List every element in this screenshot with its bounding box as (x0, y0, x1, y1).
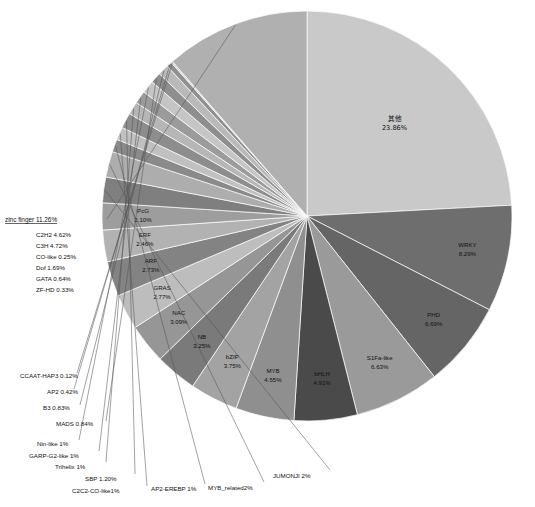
pie-chart-figure: 其他23.86%WRKY8.29%PHD6.69%S1Fa-like6.63%b… (0, 0, 535, 507)
slice-name-label: PHD (427, 311, 440, 318)
slice-value-label: 4.55% (264, 376, 282, 383)
slice-name-label: NAC (172, 309, 185, 316)
callout-label-b3: B3 0.83% (43, 404, 70, 411)
zinc-finger-member-c2h2: C2H2 4.62% (36, 231, 72, 238)
callout-label-jumonji: JUMONJI 2% (273, 472, 311, 479)
callout-label-garp-g2-like: GARP-G2-like 1% (29, 452, 79, 459)
slice-value-label: 6.69% (425, 320, 443, 327)
callout-label-myb-related: MYB_related2% (208, 484, 253, 491)
slice-name-label: NB (198, 333, 206, 340)
slice-name-label: MYB (266, 367, 279, 374)
pie-slice[interactable] (307, 11, 512, 216)
zinc-finger-member-zfhd: ZF-HD 0.33% (36, 286, 74, 293)
slice-value-label: 2.46% (136, 240, 154, 247)
slice-name-label: bHLH (314, 370, 330, 377)
zinc-finger-member-co-like: CO-like 0.25% (36, 253, 76, 260)
zinc-finger-member-gata: GATA 0.64% (36, 275, 71, 282)
slice-name-label: WRKY (458, 241, 476, 248)
slice-value-label: 8.29% (459, 250, 477, 257)
callout-label-nin-like: Nin-like 1% (37, 440, 69, 447)
slice-value-label: 23.86% (382, 124, 407, 132)
slice-name-label: PcG (137, 207, 149, 214)
zinc-finger-member-dof: Dof 1.69% (36, 264, 65, 271)
zinc-finger-member-c3h: C3H 4.72% (36, 242, 68, 249)
zinc-finger-group-title: zinc finger 11.26% (5, 216, 57, 224)
callout-label-mads: MADS 0.84% (56, 420, 94, 427)
slice-value-label: 3.09% (170, 318, 188, 325)
slice-name-label: S1Fa-like (367, 354, 393, 361)
slice-name-label: 其他 (388, 114, 402, 123)
callout-label-ap2: AP2 0.42% (47, 388, 78, 395)
callout-label-ccaat-hap3: CCAAT-HAP3 0.12% (20, 372, 78, 379)
callout-label-ap2-erebp: AP2-EREBP 1% (151, 485, 197, 492)
slice-value-label: 3.25% (193, 342, 211, 349)
callout-label-trihelix: Trihelix 1% (55, 463, 86, 470)
slice-value-label: 3.75% (224, 362, 242, 369)
slice-value-label: 4.91% (313, 379, 331, 386)
callout-label-c2c2-co-like: C2C2-CO-like1% (72, 487, 120, 494)
slice-value-label: 2.10% (134, 216, 152, 223)
callout-label-sbp: SBP 1.20% (85, 475, 117, 482)
slice-value-label: 6.63% (371, 363, 389, 370)
pie-chart-svg: 其他23.86%WRKY8.29%PHD6.69%S1Fa-like6.63%b… (0, 0, 535, 507)
slice-value-label: 2.73% (142, 266, 160, 273)
